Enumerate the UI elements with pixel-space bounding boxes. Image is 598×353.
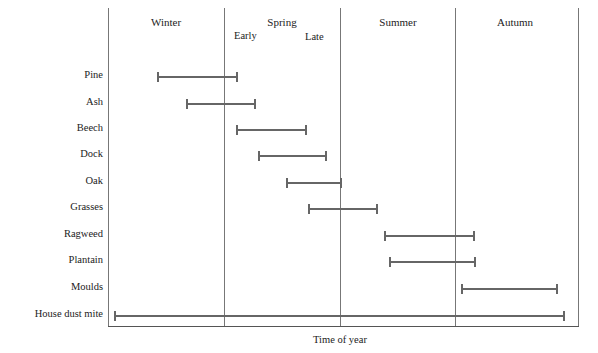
row-label: Oak xyxy=(3,175,103,186)
range-bar xyxy=(186,103,256,105)
range-bar xyxy=(114,315,565,317)
range-bar xyxy=(389,261,476,263)
season-label-autumn: Autumn xyxy=(497,16,533,28)
range-bar xyxy=(461,288,558,290)
row-label: Ash xyxy=(3,96,103,107)
frame-bottom-axis xyxy=(108,326,579,327)
row-label: Dock xyxy=(3,148,103,159)
frame-left-axis xyxy=(108,8,109,326)
range-bar xyxy=(236,129,307,131)
row-label: Grasses xyxy=(3,201,103,212)
season-label-winter: Winter xyxy=(151,16,181,28)
row-label: Plantain xyxy=(3,254,103,265)
row-label: House dust mite xyxy=(3,308,103,319)
range-bar xyxy=(157,76,239,78)
row-label: Pine xyxy=(3,69,103,80)
range-bar xyxy=(308,208,378,210)
sub-label-early: Early xyxy=(234,30,257,41)
range-bar xyxy=(286,182,342,184)
row-label: Ragweed xyxy=(3,228,103,239)
season-label-spring: Spring xyxy=(267,16,296,28)
x-axis-label: Time of year xyxy=(313,334,367,345)
season-label-summer: Summer xyxy=(379,16,416,28)
sub-label-late: Late xyxy=(305,31,324,42)
row-label: Moulds xyxy=(3,281,103,292)
row-label: Beech xyxy=(3,122,103,133)
divider-spring-summer xyxy=(340,8,341,326)
frame-right-axis xyxy=(578,8,579,326)
divider-winter-spring xyxy=(224,8,225,326)
range-bar xyxy=(384,235,475,237)
divider-summer-autumn xyxy=(455,8,456,326)
range-bar xyxy=(258,155,327,157)
